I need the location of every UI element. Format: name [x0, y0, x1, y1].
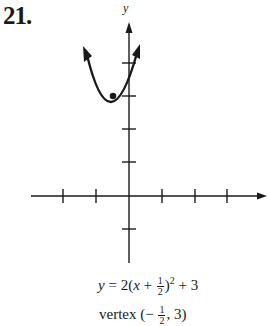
- eq-equals: =: [108, 277, 116, 293]
- vertex-fraction: 12: [158, 305, 165, 326]
- eq-var: x: [133, 277, 140, 293]
- x-axis-arrow-icon: [257, 193, 267, 200]
- vertex-tail: , 3): [166, 306, 186, 322]
- eq-plus: +: [144, 277, 152, 293]
- eq-exponent: 2: [170, 275, 175, 286]
- vertex-text: vertex (−: [99, 306, 154, 322]
- vertex-point: [110, 93, 117, 100]
- frac-den: 2: [158, 316, 165, 326]
- equation: y = 2(x + 12)2 + 3: [98, 275, 198, 297]
- eq-coef: 2(: [121, 277, 134, 293]
- vertex-label: vertex (− 12, 3): [99, 305, 186, 326]
- eq-lhs: y: [98, 277, 105, 293]
- frac-den: 2: [157, 287, 164, 297]
- eq-tail: + 3: [179, 277, 199, 293]
- curve-right-arrow-icon: [132, 44, 140, 59]
- eq-fraction: 12: [157, 276, 164, 297]
- y-axis-arrow-icon: [126, 22, 133, 33]
